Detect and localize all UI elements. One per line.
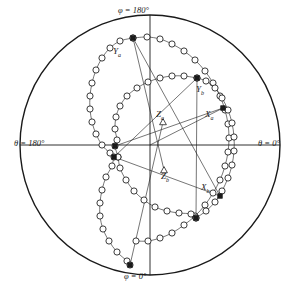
data-point-open-circle [157, 235, 163, 241]
pole-label-subscript: b [207, 188, 210, 194]
pole-marker-pole-bottom-b [194, 216, 199, 221]
data-point-open-circle [117, 103, 123, 109]
pole-marker-Yb [195, 76, 200, 81]
pole-label-Zb: Zb [161, 172, 169, 183]
data-point-open-circle [117, 38, 123, 44]
data-point-open-circle [176, 210, 182, 216]
data-point-open-circle [100, 226, 106, 232]
data-point-open-circle [114, 249, 120, 255]
data-point-open-circle [157, 36, 163, 42]
data-point-open-circle [145, 79, 151, 85]
data-point-open-circle [117, 165, 123, 171]
data-point-open-circle [114, 137, 120, 143]
pole-label-subscript: b [166, 177, 169, 183]
data-point-open-circle [202, 202, 208, 208]
pole-figure-plot [0, 0, 301, 290]
great-circle-great-circle-b-inner [112, 73, 200, 221]
data-point-open-circle [89, 80, 95, 86]
data-point-open-circle [212, 199, 218, 205]
data-point-open-circle [203, 208, 209, 214]
construction-line-Ya-to-Zb [133, 38, 164, 170]
pole-marker-pole-left-lower [112, 155, 117, 160]
pole-marker-pole-left-upper [113, 144, 118, 149]
pole-label-subscript: a [118, 52, 121, 58]
data-point-open-circle [93, 131, 99, 137]
axis-label-theta-180: θ = 180° [14, 139, 44, 148]
data-point-open-circle [123, 177, 129, 183]
data-point-open-circle [87, 106, 93, 112]
data-point-open-circle [99, 142, 105, 148]
data-point-open-circle [219, 95, 225, 101]
axis-label-phi-0: φ = 0° [124, 272, 146, 281]
pole-label-Xa: Xa [205, 110, 214, 121]
pole-marker-Xa [221, 106, 226, 111]
data-point-open-circle [203, 78, 209, 84]
data-point-open-circle [231, 134, 237, 140]
data-point-open-circle [169, 230, 175, 236]
pole-label-subscript: a [211, 115, 214, 121]
axis-label-theta-0: θ = 0° [258, 139, 280, 148]
data-point-open-circle [103, 174, 109, 180]
pole-marker-Ya [131, 36, 136, 41]
data-point-open-circle [131, 188, 137, 194]
data-point-open-circle [144, 34, 150, 40]
data-point-open-circle [145, 238, 151, 244]
data-point-open-circle [225, 175, 231, 181]
data-point-open-circle [222, 163, 228, 169]
data-point-open-circle [217, 177, 223, 183]
data-point-open-circle [169, 41, 175, 47]
great-circle-great-circle-b-lower [193, 75, 237, 221]
data-point-open-circle [124, 93, 130, 99]
data-point-open-circle [202, 68, 208, 74]
pole-label-Ya: Ya [113, 47, 121, 58]
data-point-open-circle [181, 222, 187, 228]
data-point-open-circle [109, 163, 115, 169]
pole-label-Yb: Yb [196, 85, 204, 96]
data-point-open-circle [141, 197, 147, 203]
data-point-open-circle [99, 187, 105, 193]
data-point-open-circle [219, 188, 225, 194]
data-point-open-circle [231, 148, 237, 154]
data-point-open-circle [192, 57, 198, 63]
data-point-open-circle [181, 48, 187, 54]
pole-marker-pole-bottom-a [128, 263, 133, 268]
pole-label-subscript: b [201, 90, 204, 96]
data-point-open-circle [97, 213, 103, 219]
data-point-open-circle [106, 238, 112, 244]
data-point-open-circle [229, 162, 235, 168]
stereographic-projection-figure: φ = 180° φ = 0° θ = 180° θ = 0° YaYbZaXa… [0, 0, 301, 290]
data-point-open-circle [99, 55, 105, 61]
data-point-open-circle [97, 200, 103, 206]
data-point-open-circle [169, 73, 175, 79]
construction-line-Yb-to-bottomb [196, 78, 197, 218]
data-point-open-circle [157, 75, 163, 81]
data-point-open-circle [112, 126, 118, 132]
pole-label-Za: Za [156, 110, 164, 121]
data-point-open-circle [152, 204, 158, 210]
pole-marker-Xb [218, 194, 223, 199]
data-point-open-circle [133, 238, 139, 244]
data-point-open-circle [93, 67, 99, 73]
data-point-open-circle [181, 73, 187, 79]
axis-label-phi-180: φ = 180° [118, 6, 149, 15]
data-point-open-circle [164, 208, 170, 214]
data-point-open-circle [212, 85, 218, 91]
data-point-open-circle [210, 190, 216, 196]
great-circle-great-circle-a-outer [87, 35, 136, 268]
data-point-open-circle [134, 85, 140, 91]
data-point-open-circle [225, 149, 231, 155]
pole-label-subscript: a [161, 115, 164, 121]
data-point-open-circle [89, 119, 95, 125]
data-point-open-circle [225, 107, 231, 113]
data-point-open-circle [229, 120, 235, 126]
data-point-open-circle [87, 93, 93, 99]
pole-label-Xb: Xb [201, 183, 210, 194]
data-point-open-circle [113, 114, 119, 120]
